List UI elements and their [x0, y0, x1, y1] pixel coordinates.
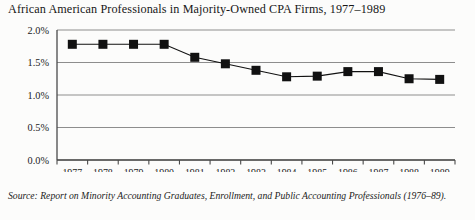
- x-axis-tick-label: 1989: [430, 167, 450, 172]
- data-point-marker: [282, 72, 291, 81]
- x-axis-tick-label: 1985: [307, 167, 327, 172]
- chart-title: African American Professionals in Majori…: [8, 2, 468, 16]
- y-axis-tick-labels: 2.0%1.5%1.0%0.5%0.0%: [28, 25, 50, 166]
- data-point-marker: [405, 74, 414, 83]
- data-point-marker: [252, 66, 261, 75]
- y-axis-tick-label: 0.5%: [28, 122, 50, 133]
- y-axis-tick-label: 1.5%: [28, 57, 50, 68]
- data-series-markers: [68, 40, 444, 84]
- x-axis-tick-label: 1981: [185, 167, 205, 172]
- y-axis-tick-label: 2.0%: [28, 25, 50, 36]
- data-point-marker: [343, 67, 352, 76]
- x-axis-tick-label: 1979: [124, 167, 144, 172]
- y-axis-tick-label: 1.0%: [28, 90, 50, 101]
- data-point-marker: [221, 59, 230, 68]
- chart-figure: African American Professionals in Majori…: [0, 0, 475, 220]
- x-axis-tick-label: 1982: [216, 167, 236, 172]
- x-axis-tick-labels: 1977197819791980198119821983198419851986…: [62, 167, 449, 172]
- x-axis-tick-label: 1983: [246, 167, 266, 172]
- data-point-marker: [98, 40, 107, 49]
- data-point-marker: [129, 40, 138, 49]
- x-axis-tick-label: 1986: [338, 167, 358, 172]
- data-point-marker: [68, 40, 77, 49]
- x-axis-tick-label: 1987: [369, 167, 389, 172]
- source-note: Source: Report on Minority Accounting Gr…: [8, 190, 470, 202]
- data-point-marker: [435, 75, 444, 84]
- data-point-marker: [313, 72, 322, 81]
- gridlines: [57, 30, 455, 160]
- x-axis-tick-label: 1978: [93, 167, 113, 172]
- y-axis-tick-label: 0.0%: [28, 155, 50, 166]
- plot-area: 2.0%1.5%1.0%0.5%0.0% 1977197819791980198…: [0, 22, 475, 172]
- chart-svg: 2.0%1.5%1.0%0.5%0.0% 1977197819791980198…: [0, 22, 475, 172]
- x-axis-tick-label: 1984: [277, 167, 297, 172]
- data-point-marker: [160, 40, 169, 49]
- data-point-marker: [374, 67, 383, 76]
- data-point-marker: [190, 53, 199, 62]
- x-axis-tick-label: 1977: [62, 167, 82, 172]
- source-text: Report on Minority Accounting Graduates,…: [40, 190, 446, 201]
- x-axis-tick-label: 1988: [399, 167, 419, 172]
- x-axis-tick-label: 1980: [154, 167, 174, 172]
- source-label: Source:: [8, 190, 38, 201]
- x-axis-ticks: [57, 160, 455, 165]
